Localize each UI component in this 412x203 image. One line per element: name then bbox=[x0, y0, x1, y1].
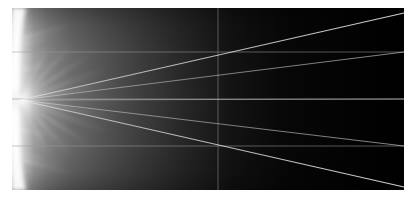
plot-svg bbox=[12, 8, 404, 190]
figure-root bbox=[0, 0, 412, 203]
plot-canvas bbox=[12, 8, 404, 190]
